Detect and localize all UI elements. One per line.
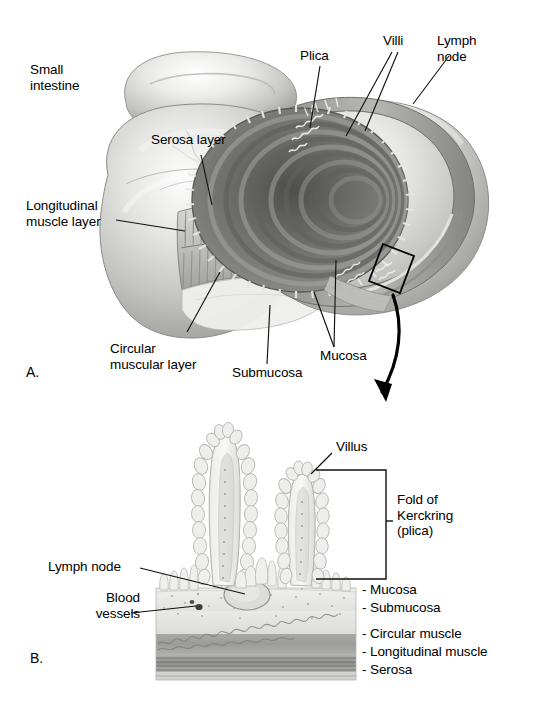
anatomy-figure: A. Small intestine Serosa layer Longitud… [0, 0, 545, 712]
label-serosa-layer: Serosa layer [151, 132, 226, 148]
label-submucosa-b: - Submucosa [362, 600, 440, 616]
villus-right [274, 460, 331, 586]
panel-b-letter: B. [30, 650, 43, 666]
label-villi: Villi [383, 33, 403, 49]
label-fold-of-kerckring: Fold of Kerckring (plica) [397, 492, 453, 539]
panel-a-letter: A. [26, 364, 39, 380]
layer-longitudinal-muscle [156, 654, 356, 672]
label-circular-muscle-b: - Circular muscle [362, 626, 462, 642]
label-circular-muscular-layer: Circular muscular layer [110, 341, 196, 372]
label-submucosa: Submucosa [232, 365, 302, 381]
villus-left [190, 422, 258, 586]
label-blood-vessels: Blood vessels [68, 590, 140, 621]
label-mucosa: Mucosa [320, 348, 367, 364]
panel-b-artwork [131, 422, 393, 680]
fold-of-kerckring-bracket [316, 470, 393, 579]
label-plica: Plica [300, 48, 329, 64]
label-villus: Villus [336, 439, 367, 455]
layer-circular-muscle [156, 634, 356, 654]
label-lymph-node-a: Lymph node [437, 33, 477, 64]
label-serosa-b: - Serosa [362, 662, 412, 678]
label-longitudinal-muscle-b: - Longitudinal muscle [362, 644, 487, 660]
label-longitudinal-muscle-layer: Longitudinal muscle layer [26, 198, 101, 229]
label-mucosa-b: - Mucosa [362, 582, 417, 598]
label-lymph-node-b: Lymph node [48, 559, 121, 575]
label-small-intestine: Small intestine [30, 62, 79, 93]
